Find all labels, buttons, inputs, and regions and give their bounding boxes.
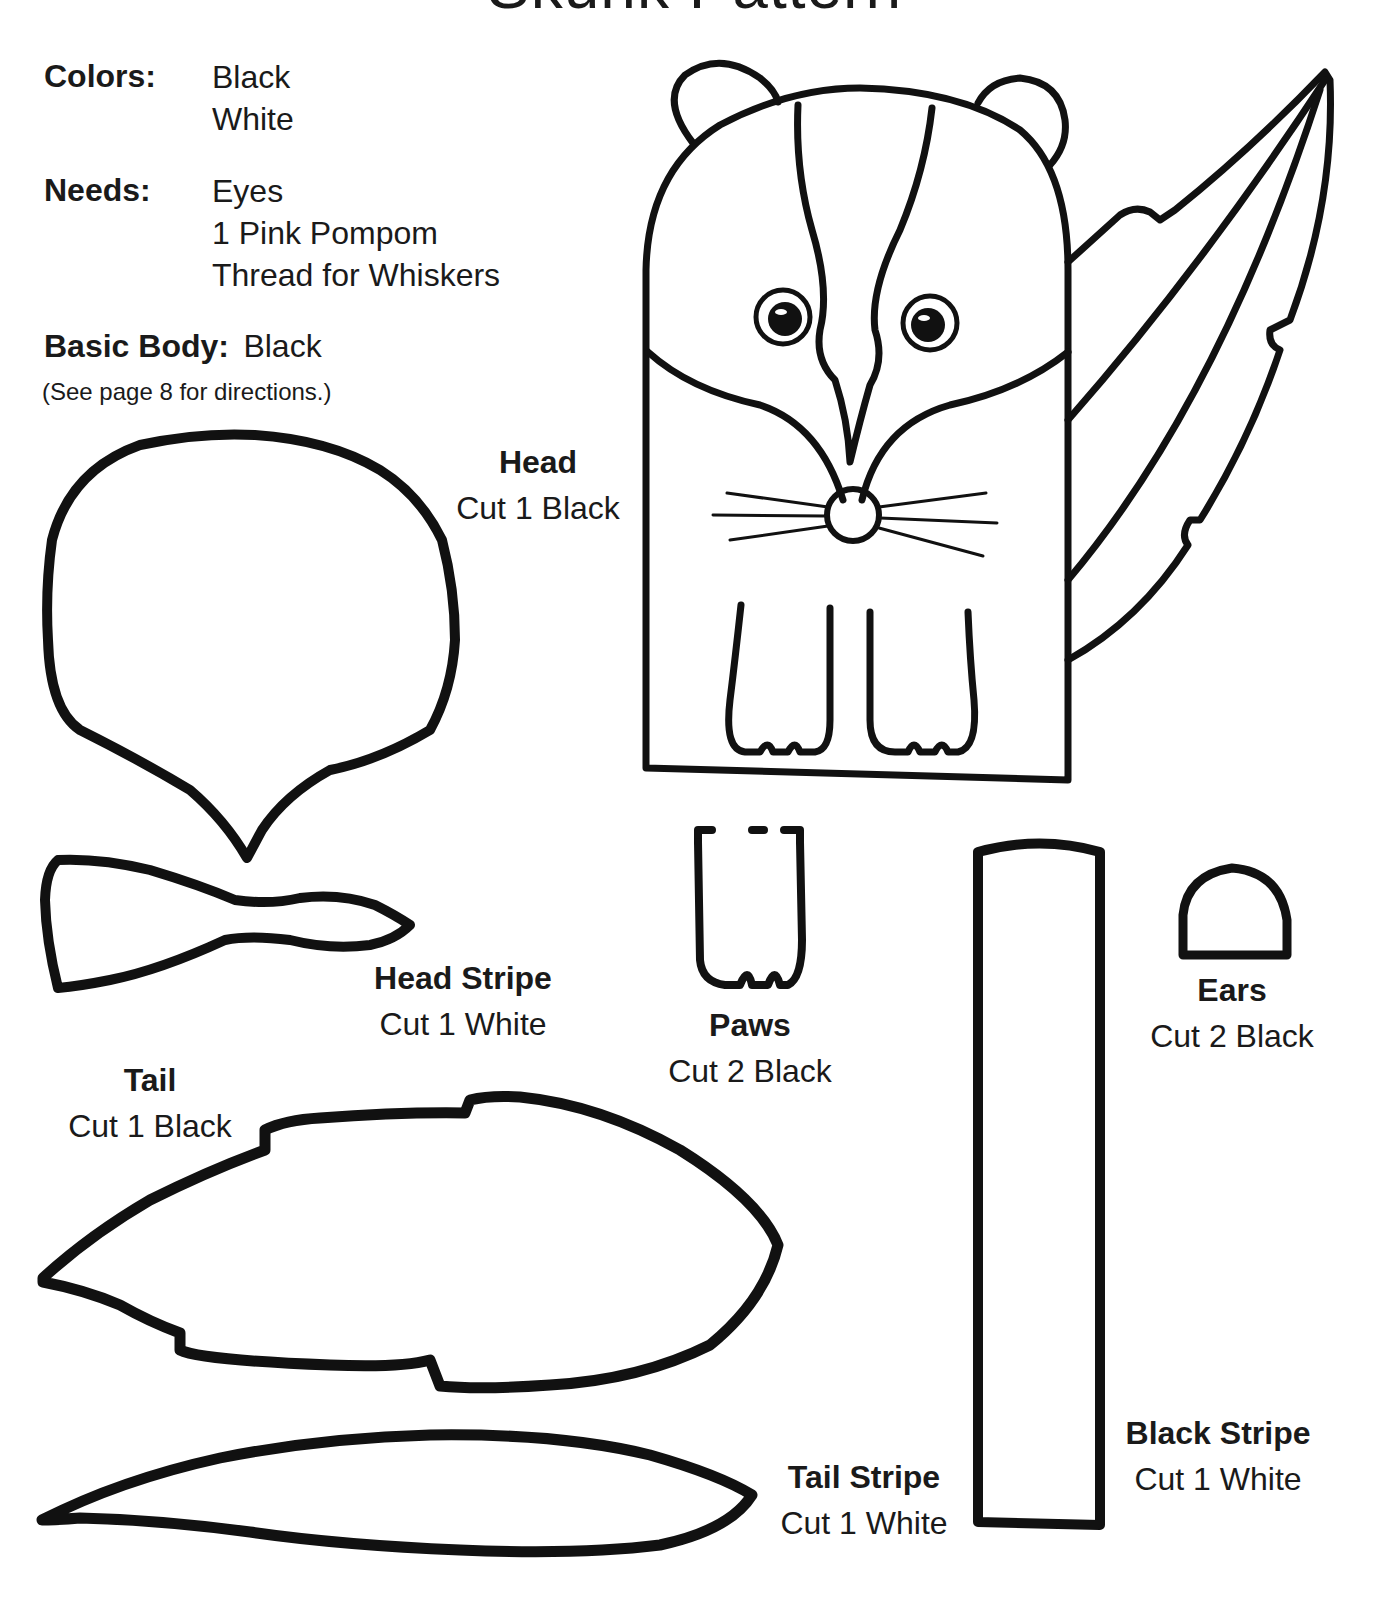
- piece-name: Black Stripe: [1108, 1413, 1328, 1453]
- skunk-head-stripe-icon: [798, 105, 932, 462]
- skunk-left-eye-icon: [756, 290, 810, 344]
- ears-piece-label: Ears Cut 2 Black: [1132, 970, 1332, 1062]
- skunk-whiskers-icon: [713, 493, 997, 556]
- paws-piece-label: Paws Cut 2 Black: [650, 1005, 850, 1097]
- head-piece-label: Head Cut 1 Black: [440, 442, 636, 534]
- piece-name: Ears: [1132, 970, 1332, 1010]
- piece-cut-instruction: Cut 2 Black: [650, 1045, 850, 1097]
- piece-cut-instruction: Cut 1 Black: [440, 482, 636, 534]
- skunk-right-eye-icon: [903, 296, 957, 350]
- black-stripe-piece-label: Black Stripe Cut 1 White: [1108, 1413, 1328, 1505]
- skunk-tail-icon: [1068, 72, 1331, 660]
- skunk-right-paw-icon: [870, 612, 975, 752]
- piece-cut-instruction: Cut 1 White: [352, 998, 574, 1050]
- skunk-left-paw-icon: [729, 605, 830, 752]
- tail-stripe-piece-label: Tail Stripe Cut 1 White: [764, 1457, 964, 1549]
- piece-cut-instruction: Cut 2 Black: [1132, 1010, 1332, 1062]
- skunk-right-ear-icon: [978, 78, 1065, 165]
- piece-cut-instruction: Cut 1 White: [764, 1497, 964, 1549]
- piece-name: Paws: [650, 1005, 850, 1045]
- tail-piece-label: Tail Cut 1 Black: [50, 1060, 250, 1152]
- head-stripe-piece-label: Head Stripe Cut 1 White: [352, 958, 574, 1050]
- assembled-skunk-illustration: [646, 63, 1331, 780]
- piece-cut-instruction: Cut 1 White: [1108, 1453, 1328, 1505]
- tail-stripe-piece-shape: [42, 1435, 752, 1552]
- ears-piece-shape: [1183, 868, 1287, 955]
- skunk-nose-icon: [827, 489, 879, 541]
- piece-name: Tail Stripe: [764, 1457, 964, 1497]
- piece-name: Head Stripe: [352, 958, 574, 998]
- piece-name: Head: [440, 442, 636, 482]
- pattern-drawings: [0, 0, 1389, 1602]
- piece-cut-instruction: Cut 1 Black: [50, 1100, 250, 1152]
- paws-piece-shape: [698, 830, 802, 985]
- head-piece-shape: [47, 434, 455, 858]
- piece-name: Tail: [50, 1060, 250, 1100]
- black-stripe-piece-shape: [978, 844, 1100, 1526]
